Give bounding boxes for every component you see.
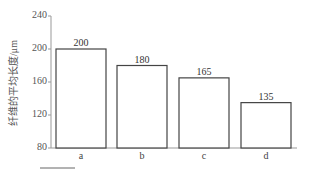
y-tick-label: 120	[32, 108, 47, 119]
bar-rect	[179, 78, 229, 148]
y-axis-ticks: 80120160200240	[32, 9, 51, 152]
bar-d: 135d	[241, 91, 291, 161]
bar-rect	[56, 49, 106, 148]
bar-c: 165c	[179, 66, 229, 161]
y-tick-label: 200	[32, 42, 47, 53]
bar-rect	[241, 103, 291, 148]
y-tick-label: 240	[32, 9, 47, 20]
y-axis-label: 纤维的平均长度/μm	[7, 40, 19, 126]
bar-a: 200a	[56, 37, 106, 161]
bar-rect	[117, 66, 167, 149]
bar-value-label: 200	[74, 37, 89, 48]
x-category-label: b	[140, 150, 145, 161]
x-category-label: c	[202, 150, 207, 161]
bar-b: 180b	[117, 54, 167, 162]
bars: 200a180b165c135d	[56, 37, 291, 161]
bar-value-label: 180	[135, 54, 150, 65]
bar-chart: 纤维的平均长度/μm 80120160200240 200a180b165c13…	[0, 0, 309, 172]
y-tick-label: 160	[32, 75, 47, 86]
y-tick-label: 80	[37, 141, 47, 152]
x-category-label: d	[264, 150, 269, 161]
x-category-label: a	[79, 150, 84, 161]
bar-value-label: 135	[259, 91, 274, 102]
bar-value-label: 165	[197, 66, 212, 77]
